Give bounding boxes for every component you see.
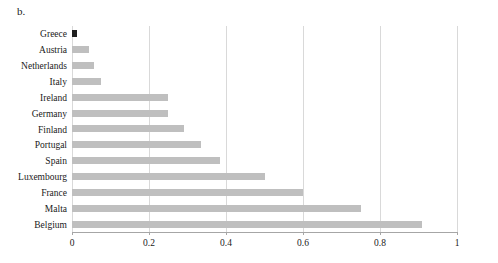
category-label-germany: Germany	[32, 109, 67, 119]
bar-row	[72, 89, 457, 105]
x-tick-0.4	[226, 232, 227, 235]
category-label-luxembourg: Luxembourg	[18, 172, 67, 182]
category-label-france: France	[41, 188, 67, 198]
bar-spain[interactable]	[72, 157, 220, 164]
bar-luxembourg[interactable]	[72, 173, 265, 180]
category-axis-labels: GreeceAustriaNetherlandsItalyIrelandGerm…	[0, 26, 67, 232]
category-label-finland: Finland	[38, 125, 67, 135]
category-label-spain: Spain	[45, 156, 67, 166]
bar-row	[72, 74, 457, 90]
panel-label: b.	[17, 5, 25, 17]
x-tick-label-0.4: 0.4	[220, 238, 232, 249]
category-label-netherlands: Netherlands	[21, 61, 67, 71]
x-tick-label-1: 1	[455, 238, 460, 249]
bar-malta[interactable]	[72, 205, 361, 212]
bar-row	[72, 137, 457, 153]
category-label-italy: Italy	[50, 77, 67, 87]
x-tick-0.8	[380, 232, 381, 235]
bar-ireland[interactable]	[72, 94, 168, 101]
x-tick-1	[457, 232, 458, 235]
category-label-malta: Malta	[45, 204, 67, 214]
bar-row	[72, 216, 457, 232]
bar-finland[interactable]	[72, 125, 184, 132]
x-axis-tick-labels: 00.20.40.60.81	[72, 238, 458, 254]
category-label-austria: Austria	[39, 45, 67, 55]
bar-series	[72, 26, 457, 232]
category-label-ireland: Ireland	[40, 93, 67, 103]
bar-row	[72, 153, 457, 169]
gridline-1	[457, 26, 458, 232]
bar-belgium[interactable]	[72, 221, 422, 228]
category-label-portugal: Portugal	[35, 140, 67, 150]
bar-row	[72, 200, 457, 216]
x-tick-0.6	[303, 232, 304, 235]
x-tick-label-0.6: 0.6	[297, 238, 309, 249]
bar-row	[72, 121, 457, 137]
category-label-greece: Greece	[40, 29, 67, 39]
bar-portugal[interactable]	[72, 141, 201, 148]
bar-germany[interactable]	[72, 110, 168, 117]
bar-greece[interactable]	[72, 30, 77, 37]
bar-row	[72, 42, 457, 58]
x-tick-0	[72, 232, 73, 235]
x-tick-label-0: 0	[70, 238, 75, 249]
bar-row	[72, 58, 457, 74]
bar-row	[72, 169, 457, 185]
x-tick-label-0.2: 0.2	[143, 238, 155, 249]
x-tick-label-0.8: 0.8	[374, 238, 386, 249]
bar-row	[72, 26, 457, 42]
bar-netherlands[interactable]	[72, 62, 94, 69]
bar-france[interactable]	[72, 189, 303, 196]
x-axis-line	[72, 232, 458, 233]
plot-area	[72, 26, 457, 232]
x-tick-0.2	[149, 232, 150, 235]
category-label-belgium: Belgium	[34, 220, 67, 230]
bar-row	[72, 184, 457, 200]
bar-row	[72, 105, 457, 121]
bar-chart-figure: b. GreeceAustriaNetherlandsItalyIrelandG…	[0, 0, 498, 263]
bar-italy[interactable]	[72, 78, 101, 85]
bar-austria[interactable]	[72, 46, 89, 53]
